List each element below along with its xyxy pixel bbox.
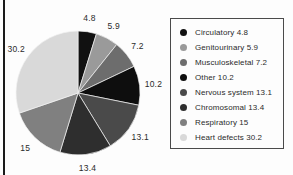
legend-item[interactable]: Circulatory 4.8 xyxy=(171,25,283,40)
legend-item-label: Heart defects 30.2 xyxy=(195,133,262,142)
pie-slices xyxy=(16,31,140,155)
legend-color-swatch-icon xyxy=(180,119,187,126)
legend-item-label: Chromosomal 13.4 xyxy=(195,103,264,112)
legend-item-label: Other 10.2 xyxy=(195,73,234,82)
legend-item[interactable]: Nervous system 13.1 xyxy=(171,85,283,100)
legend-item[interactable]: Other 10.2 xyxy=(171,70,283,85)
legend-color-swatch-icon xyxy=(180,29,187,36)
legend-color-swatch-icon xyxy=(180,89,187,96)
legend-color-swatch-icon xyxy=(180,59,187,66)
pie-slice-value-label: 4.8 xyxy=(83,13,95,23)
pie-slice-value-label: 10.2 xyxy=(145,79,162,89)
legend-item[interactable]: Respiratory 15 xyxy=(171,115,283,130)
legend-color-swatch-icon xyxy=(180,44,187,51)
pie-chart-svg xyxy=(8,8,160,170)
legend-item[interactable]: Genitourinary 5.9 xyxy=(171,40,283,55)
pie-slice-value-label: 5.9 xyxy=(107,21,119,31)
legend-item-label: Circulatory 4.8 xyxy=(195,28,248,37)
legend-item-label: Genitourinary 5.9 xyxy=(195,43,258,52)
pie-slice-value-label: 13.4 xyxy=(79,163,96,173)
legend-item[interactable]: Heart defects 30.2 xyxy=(171,130,283,145)
legend-color-swatch-icon xyxy=(180,134,187,141)
legend-color-swatch-icon xyxy=(180,74,187,81)
page-left-rule xyxy=(3,0,5,175)
pie-slice-value-label: 13.1 xyxy=(132,132,149,142)
legend-color-swatch-icon xyxy=(180,104,187,111)
legend-item-label: Nervous system 13.1 xyxy=(195,88,272,97)
legend-item[interactable]: Chromosomal 13.4 xyxy=(171,100,283,115)
chart-page: 4.85.97.210.213.113.41530.2 Circulatory … xyxy=(0,0,293,175)
legend-item-label: Respiratory 15 xyxy=(195,118,248,127)
legend-item-label: Musculoskeletal 7.2 xyxy=(195,58,267,67)
pie-chart: 4.85.97.210.213.113.41530.2 xyxy=(8,8,160,170)
chart-legend: Circulatory 4.8Genitourinary 5.9Musculos… xyxy=(170,18,284,149)
pie-slice-value-label: 15 xyxy=(20,143,30,153)
legend-item[interactable]: Musculoskeletal 7.2 xyxy=(171,55,283,70)
pie-slice-value-label: 30.2 xyxy=(7,44,24,54)
pie-slice-value-label: 7.2 xyxy=(131,41,143,51)
